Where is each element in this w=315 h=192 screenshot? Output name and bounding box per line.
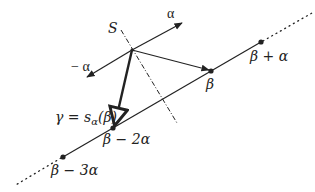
- label-beta: β: [205, 76, 214, 92]
- label-beta-plus-alpha: β + α: [249, 48, 289, 64]
- root-string-dotted-upper: [263, 13, 312, 41]
- alpha-arrow: [132, 23, 182, 50]
- point-beta-minus-2alpha: [110, 125, 115, 130]
- root-string-line: [63, 42, 261, 157]
- label-hyperplane-s: S: [108, 20, 118, 36]
- label-beta-minus-2alpha: β − 2α: [102, 131, 151, 147]
- point-beta-minus-3alpha: [60, 154, 65, 159]
- label-neg-alpha: − α: [71, 59, 90, 74]
- gamma-reflection-arrow: [115, 50, 132, 124]
- hyperplane-s-line: [121, 30, 177, 123]
- point-beta-plus-alpha: [258, 39, 263, 44]
- label-beta-minus-3alpha: β − 3α: [50, 162, 99, 178]
- root-string-diagram: S α − α β β + α β − 2α β − 3α γ = sα(β): [0, 0, 315, 192]
- label-alpha: α: [167, 6, 175, 21]
- point-origin: [131, 49, 134, 52]
- label-gamma-main: γ = s: [55, 109, 91, 125]
- label-gamma: γ = sα(β): [55, 109, 117, 127]
- point-beta: [208, 68, 213, 73]
- label-gamma-arg: (β): [98, 109, 117, 125]
- neg-alpha-arrow: [87, 50, 132, 77]
